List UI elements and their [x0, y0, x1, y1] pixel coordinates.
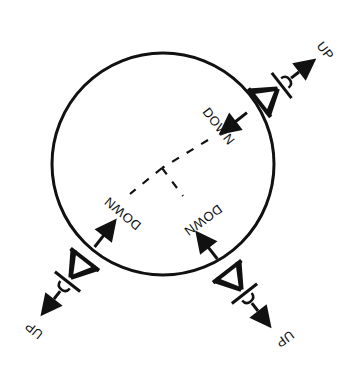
- dashed-guide-lines: [130, 140, 208, 196]
- gear-mechanism-lower-right: [181, 220, 286, 340]
- label-up-upper-right: UP: [314, 39, 338, 63]
- label-down-lower-right: DOWN: [181, 202, 225, 240]
- label-up-lower-right: UP: [273, 328, 297, 351]
- gear-direction-diagram: DOWN UP DOWN UP DOWN UP: [0, 0, 356, 380]
- label-up-lower-left: UP: [22, 318, 46, 342]
- fuselage-circle: [52, 53, 274, 275]
- gear-mechanism-lower-left: [26, 208, 131, 328]
